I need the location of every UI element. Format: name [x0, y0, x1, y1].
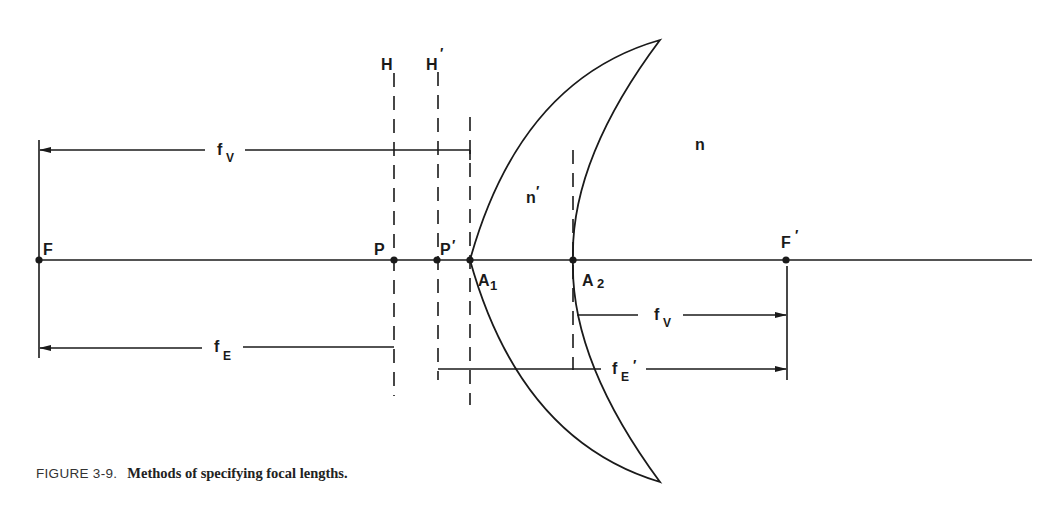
label-h: H: [381, 56, 393, 73]
label-a1: A: [478, 272, 490, 289]
label-p-prime: P: [440, 241, 451, 258]
label-fv-back-sub: V: [663, 316, 671, 330]
label-f-prime: F: [781, 234, 791, 251]
label-fe-back: f: [612, 360, 618, 377]
point-f-prime: [782, 256, 789, 263]
meniscus-lens: [470, 40, 660, 482]
label-n-prime: n: [526, 189, 536, 206]
label-n: n: [695, 136, 705, 153]
label-fe-back-prime: ′: [633, 357, 637, 373]
label-p-prime-mark: ′: [452, 237, 456, 253]
label-n-prime-mark: ′: [536, 183, 540, 199]
label-a2: A: [582, 272, 594, 289]
point-a1: [466, 256, 473, 263]
point-f: [35, 256, 42, 263]
point-a2: [569, 256, 576, 263]
figure-caption: FIGURE 3-9.Methods of specifying focal l…: [36, 465, 348, 482]
label-fe-back-sub: E: [621, 370, 629, 384]
figure-title: Methods of specifying focal lengths.: [127, 465, 347, 481]
label-fe-front-sub: E: [223, 349, 231, 363]
label-fe-front: f: [214, 338, 220, 355]
label-a1-sub: 1: [490, 278, 497, 293]
label-h-prime: H: [426, 56, 438, 73]
focal-length-diagram: H H ′ F P P ′ F ′ A 1 A 2 n n ′ f V f E …: [0, 0, 1059, 509]
label-a2-sub: 2: [597, 276, 604, 291]
label-f: F: [43, 241, 53, 258]
figure-number: FIGURE 3-9.: [36, 466, 117, 481]
label-fv-front: f: [217, 141, 223, 158]
label-fv-back: f: [654, 306, 660, 323]
point-p: [390, 256, 397, 263]
label-h-prime-mark: ′: [440, 45, 444, 61]
label-f-prime-mark: ′: [795, 227, 799, 243]
label-fv-front-sub: V: [226, 151, 234, 165]
label-p: P: [374, 241, 385, 258]
